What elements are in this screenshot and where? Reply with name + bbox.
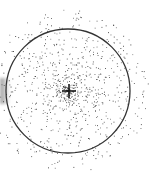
density-diagram — [0, 0, 150, 179]
scatter-points — [0, 10, 149, 170]
